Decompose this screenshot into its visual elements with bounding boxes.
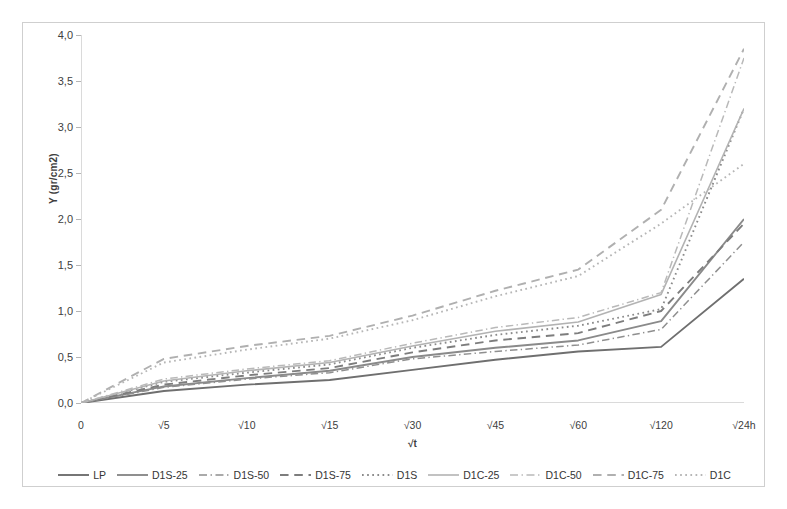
x-axis-tick-label: √10 [238,419,255,431]
x-axis-tick-label: √15 [321,419,338,431]
y-axis-tick-label: 0,0 [39,397,73,409]
legend-label: D1S-75 [315,469,351,481]
series-line-d1c-75 [81,49,744,403]
y-axis-tick-mark [76,81,81,82]
legend-swatch-dotted-icon [675,471,706,479]
x-axis-tick-label: √120 [649,419,672,431]
y-axis-tick-label: 1,0 [39,305,73,317]
y-axis-tick-mark [76,35,81,36]
x-axis-tick-label: √60 [570,419,587,431]
legend-label: D1S [397,469,417,481]
legend-item-d1c[interactable]: D1C [675,469,731,481]
legend-item-d1c-75[interactable]: D1C-75 [593,469,664,481]
series-line-d1s-25 [81,219,744,403]
legend-item-d1c-50[interactable]: D1C-50 [510,469,581,481]
y-axis-tick-label: 1,5 [39,259,73,271]
x-axis-title: √t [81,438,744,449]
legend-label: LP [93,469,106,481]
x-axis-tick-label: √24h [732,419,755,431]
legend-label: D1S-50 [234,469,270,481]
legend-swatch-dashed-icon [280,471,311,479]
legend-item-d1s-25[interactable]: D1S-25 [117,469,188,481]
y-axis-tick-label: 0,5 [39,351,73,363]
y-axis-tick-label: 3,0 [39,121,73,133]
y-axis-tick-label: 4,0 [39,29,73,41]
legend-label: D1S-25 [152,469,188,481]
y-axis-tick-mark [76,311,81,312]
legend-swatch-dashdot-icon [199,471,230,479]
legend-item-lp[interactable]: LP [58,469,106,481]
legend-swatch-dashed-icon [593,471,624,479]
legend-item-d1s-75[interactable]: D1S-75 [280,469,351,481]
series-line-d1s [81,109,744,403]
y-axis-tick-mark [76,127,81,128]
y-axis-tick-mark [76,173,81,174]
series-line-d1s-75 [81,224,744,403]
legend-label: D1C-25 [463,469,499,481]
chart-legend: LPD1S-25D1S-50D1S-75D1SD1C-25D1C-50D1C-7… [24,463,765,487]
y-axis-tick-mark [76,265,81,266]
legend-item-d1s[interactable]: D1S [362,469,417,481]
legend-swatch-solid-icon [58,471,89,479]
legend-swatch-dotted-icon [362,471,393,479]
x-axis-tick-label: √5 [158,419,170,431]
y-axis-tick-mark [76,357,81,358]
plot-canvas: 0,00,51,01,52,02,53,03,54,0 0√5√10√15√30… [81,35,744,403]
series-canvas [81,35,744,403]
x-axis-tick-label: 0 [78,419,84,431]
x-axis-tick-label: √30 [404,419,421,431]
series-line-d1c-25 [81,109,744,403]
series-line-d1c-50 [81,58,744,403]
legend-item-d1s-50[interactable]: D1S-50 [199,469,270,481]
legend-swatch-dashdot-icon [510,471,541,479]
legend-item-d1c-25[interactable]: D1C-25 [428,469,499,481]
y-axis-tick-label: 2,5 [39,167,73,179]
y-axis-tick-label: 2,0 [39,213,73,225]
legend-swatch-solid-icon [428,471,459,479]
y-axis-tick-mark [76,219,81,220]
x-axis-tick-label: √45 [487,419,504,431]
y-axis-tick-mark [76,403,81,404]
chart-figure: Y (gr/cm2) 0,00,51,01,52,02,53,03,54,0 0… [22,22,765,487]
series-line-d1c [81,164,744,403]
chart-plot-area: Y (gr/cm2) 0,00,51,01,52,02,53,03,54,0 0… [23,23,766,433]
legend-label: D1C-50 [545,469,581,481]
y-axis-tick-label: 3,5 [39,75,73,87]
legend-label: D1C-75 [628,469,664,481]
legend-label: D1C [710,469,731,481]
legend-swatch-solid-icon [117,471,148,479]
